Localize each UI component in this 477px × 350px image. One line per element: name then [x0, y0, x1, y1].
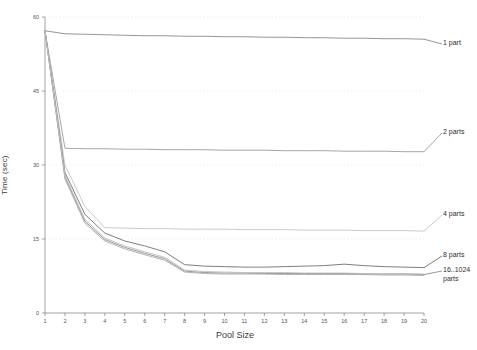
x-tick-label: 14 — [297, 318, 311, 324]
series-line — [45, 31, 424, 39]
legend-label: 4 parts — [443, 210, 464, 219]
series-line — [45, 31, 424, 268]
x-tick-label: 12 — [257, 318, 271, 324]
series-line — [45, 31, 424, 276]
y-tick-label: 30 — [15, 162, 39, 168]
x-tick-label: 17 — [357, 318, 371, 324]
chart-plot-area — [0, 0, 477, 350]
y-tick-label: 0 — [15, 310, 39, 316]
y-tick-label: 60 — [15, 14, 39, 20]
x-tick-label: 9 — [198, 318, 212, 324]
series-line — [45, 31, 424, 274]
x-tick-label: 13 — [277, 318, 291, 324]
y-tick-label: 45 — [15, 88, 39, 94]
x-tick-label: 19 — [397, 318, 411, 324]
x-tick-label: 16 — [337, 318, 351, 324]
x-tick-label: 2 — [58, 318, 72, 324]
x-tick-label: 15 — [317, 318, 331, 324]
x-tick-label: 18 — [377, 318, 391, 324]
x-tick-label: 8 — [178, 318, 192, 324]
x-tick-label: 11 — [237, 318, 251, 324]
x-tick-label: 3 — [78, 318, 92, 324]
x-tick-label: 10 — [218, 318, 232, 324]
x-tick-label: 7 — [158, 318, 172, 324]
x-tick-label: 6 — [138, 318, 152, 324]
legend-label: 1 part — [443, 39, 461, 48]
x-tick-label: 4 — [98, 318, 112, 324]
legend-label: 16..1024 parts — [443, 266, 470, 283]
x-tick-label: 1 — [38, 318, 52, 324]
x-tick-label: 5 — [118, 318, 132, 324]
y-axis-title: Time (sec) — [0, 155, 9, 194]
legend-label: 8 parts — [443, 251, 464, 260]
x-tick-label: 20 — [417, 318, 431, 324]
chart-figure: Time (sec) Pool Size 015304560 123456789… — [0, 0, 477, 350]
x-axis-title: Pool Size — [216, 330, 254, 340]
series-line — [45, 31, 424, 231]
y-tick-label: 15 — [15, 236, 39, 242]
legend-label: 2 parts — [443, 128, 464, 137]
series-line — [45, 31, 424, 152]
